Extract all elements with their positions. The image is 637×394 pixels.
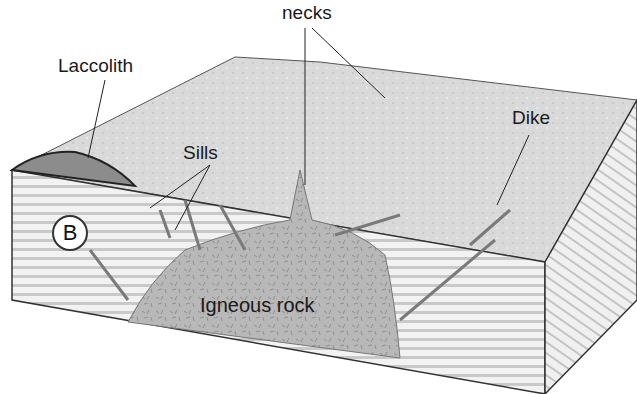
dike-label: Dike <box>512 108 550 127</box>
sills-label: Sills <box>183 143 218 162</box>
laccolith-label: Laccolith <box>58 56 133 75</box>
badge-b: B <box>52 215 88 251</box>
block-diagram: necks Laccolith Sills Dike Igneous rock … <box>0 0 637 394</box>
necks-label: necks <box>282 3 332 22</box>
igneous-rock-label: Igneous rock <box>200 295 315 315</box>
